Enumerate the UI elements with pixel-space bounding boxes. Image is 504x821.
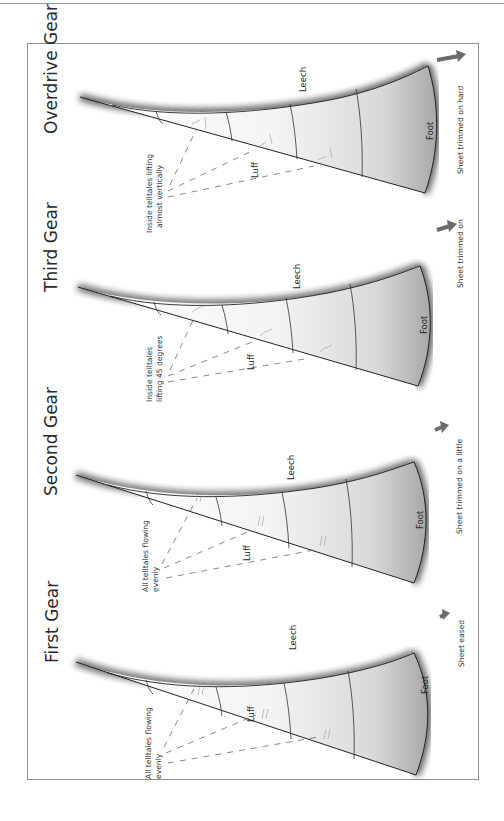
leech-label: Leech [292, 264, 302, 289]
pointer-dash [162, 504, 194, 564]
telltale-note-line2: evenly [151, 566, 160, 592]
pointer-dash [166, 550, 314, 578]
pointer-dash [168, 150, 254, 191]
telltale-note-line1: Inside telltales [145, 347, 154, 402]
telltale-note-line1: Inside telltales lifting [145, 154, 154, 233]
sheet-note: Sheet eased [457, 620, 466, 667]
panel-third-gear: Third Gear Leech Luff Foot Inside tellta… [41, 202, 465, 402]
telltale-note-line1: All telltales flowing [144, 707, 153, 779]
telltale-note-line2: almost vertically [155, 164, 164, 228]
panel-first-gear: First Gear Leech Luff Foot All telltales… [42, 581, 466, 779]
pointer-dash [168, 358, 310, 382]
sheet-arrow-icon [437, 220, 457, 232]
telltale-note-line1: All telltales flowing [141, 520, 150, 592]
sheet-arrow-icon [437, 50, 466, 62]
telltale-note-line2: evenly [154, 753, 163, 779]
sheet-note: Sheet trimmed on a little [455, 438, 464, 534]
panel-second-gear: Second Gear Leech Luff Foot All telltale… [41, 387, 464, 592]
sail-body [76, 462, 426, 583]
luff-label: Luff [250, 161, 260, 178]
foot-label: Foot [425, 121, 435, 140]
pointer-dash [166, 715, 256, 753]
foot-label: Foot [420, 675, 430, 694]
luff-label: Luff [242, 544, 252, 561]
foot-label: Foot [415, 510, 425, 529]
leech-label: Leech [288, 625, 298, 650]
pointer-dash [170, 318, 194, 370]
luff-label: Luff [246, 353, 256, 370]
luff-label: Luff [246, 705, 256, 722]
panel-title: Third Gear [41, 202, 61, 293]
panel-title: Overdrive Gear [41, 4, 61, 134]
sheet-note: Sheet trimmed on hard [456, 85, 465, 174]
sheet-note: Sheet trimmed on [456, 219, 465, 288]
panel-title: Second Gear [41, 387, 61, 496]
leech-label: Leech [286, 455, 296, 480]
leech-label: Leech [298, 67, 308, 92]
panel-title: First Gear [42, 581, 62, 663]
pointer-dash [168, 166, 314, 197]
pointer-dash [164, 530, 252, 568]
pointer-dash [168, 737, 318, 763]
sheet-arrow-icon [440, 609, 450, 620]
pointer-dash [170, 130, 196, 185]
panel-overdrive-gear: Overdrive Gear Leech Luff Foot Inside te… [41, 4, 466, 233]
foot-label: Foot [419, 315, 429, 334]
sheet-arrow-icon [435, 421, 449, 433]
sail-trim-diagram: Overdrive Gear Leech Luff Foot Inside te… [0, 0, 504, 821]
telltale-note-line2: lifting 45 degrees [155, 335, 164, 402]
